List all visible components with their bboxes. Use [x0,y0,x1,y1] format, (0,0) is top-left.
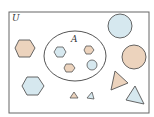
venn-diagram: U A [0,0,154,117]
circle-blue-in-a [87,60,97,70]
universal-set-label: U [12,13,20,23]
circle-tan-outside [122,45,146,69]
hexagon-blue-in-a [54,47,66,57]
set-a-label: A [70,34,78,44]
hexagon-tan-in-a-2 [64,64,75,72]
circle-blue-outside [108,14,132,38]
